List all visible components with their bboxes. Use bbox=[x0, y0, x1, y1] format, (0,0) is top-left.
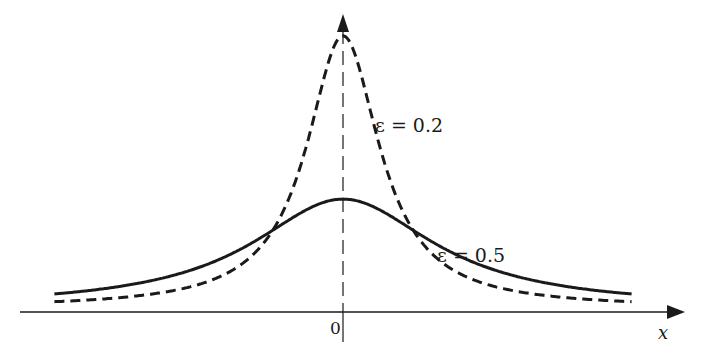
x-axis-arrow-icon bbox=[667, 305, 685, 319]
lorentzian-plot bbox=[0, 0, 703, 358]
y-axis-arrow-icon bbox=[337, 14, 349, 32]
curve-label-eps-0-2: ε = 0.2 bbox=[375, 114, 443, 136]
curve-label-eps-0-5: ε = 0.5 bbox=[437, 244, 505, 266]
x-axis-label: x bbox=[658, 322, 668, 343]
origin-label: 0 bbox=[330, 318, 341, 338]
